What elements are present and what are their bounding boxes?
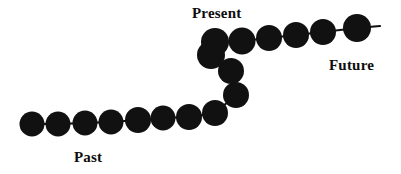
label-future: Future xyxy=(329,58,374,73)
timeline-bead-chain-figure: Past Present Future xyxy=(0,0,401,174)
bead xyxy=(99,110,124,135)
bead xyxy=(256,25,282,51)
past-segment-beads xyxy=(20,104,203,137)
bead xyxy=(223,82,249,108)
bead xyxy=(73,111,98,136)
bead xyxy=(310,19,336,45)
bead xyxy=(20,112,45,137)
bead xyxy=(176,104,202,130)
label-present: Present xyxy=(192,6,241,21)
bead xyxy=(283,22,309,48)
bead xyxy=(46,112,71,137)
bead xyxy=(229,28,256,55)
bead xyxy=(125,107,151,133)
bead xyxy=(201,28,229,56)
bead xyxy=(151,106,176,131)
bead xyxy=(202,100,228,126)
label-past: Past xyxy=(74,150,102,165)
bead-chain-graphic xyxy=(0,0,401,174)
future-segment-beads xyxy=(229,14,372,55)
bead xyxy=(343,14,371,42)
